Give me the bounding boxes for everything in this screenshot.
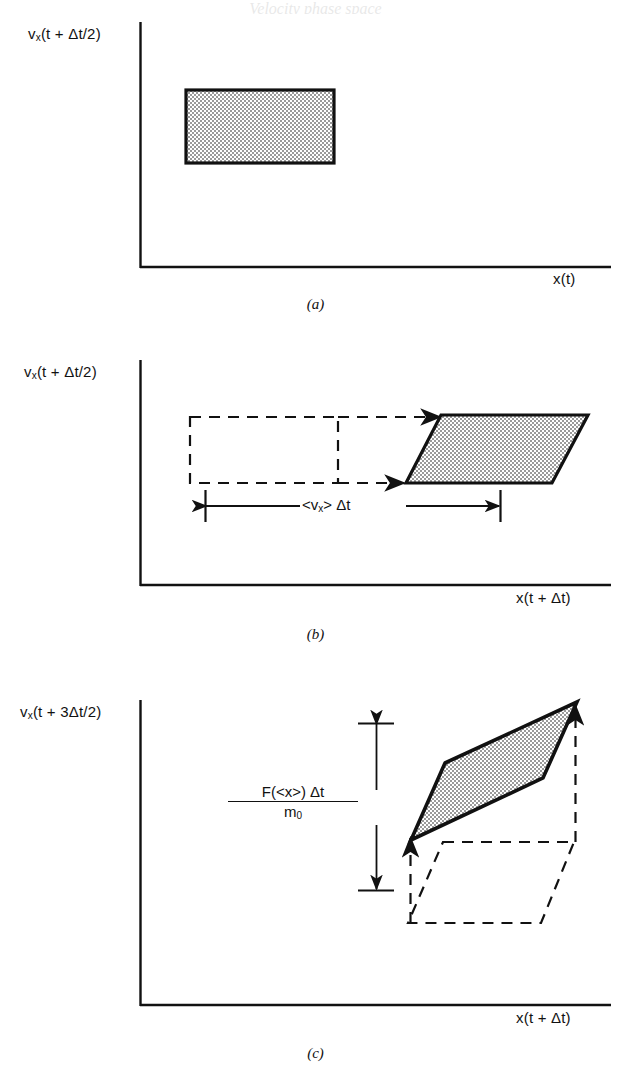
phase-space-area-previous-dashed bbox=[190, 417, 338, 483]
phase-space-area-initial bbox=[186, 90, 334, 163]
phase-space-area-accelerated bbox=[411, 702, 577, 840]
dimension-line-force-impulse bbox=[358, 724, 394, 891]
panel-a-caption: (a) bbox=[0, 296, 631, 313]
panel-b: vx(t + Δt/2) x(t + Δt) <vx> Δt (b) bbox=[0, 330, 631, 660]
force-impulse-denominator: m0 bbox=[228, 802, 358, 822]
panel-a-y-axis-label: vx(t + Δt/2) bbox=[28, 25, 101, 43]
panel-c-y-axis-label: vx(t + 3Δt/2) bbox=[20, 703, 101, 721]
force-impulse-numerator: F(<x>) Δt bbox=[228, 783, 358, 802]
panel-b-y-axis-label: vx(t + Δt/2) bbox=[24, 363, 97, 381]
panel-b-x-axis-label: x(t + Δt) bbox=[516, 589, 571, 606]
phase-space-area-shifted bbox=[406, 415, 588, 483]
panel-c-x-axis-label: x(t + Δt) bbox=[516, 1009, 571, 1026]
panel-a-x-axis-label: x(t) bbox=[553, 270, 575, 287]
phase-space-area-previous-dashed bbox=[408, 842, 574, 923]
panel-c: vx(t + 3Δt/2) x(t + Δt) F(<x>) Δt m0 (c) bbox=[0, 670, 631, 1070]
panel-a: vx(t + Δt/2) x(t) (a) bbox=[0, 0, 631, 320]
panel-a-graphic bbox=[0, 0, 631, 320]
dimension-line-vx-dt bbox=[206, 490, 501, 522]
panel-b-caption: (b) bbox=[0, 626, 631, 643]
panel-c-caption: (c) bbox=[0, 1045, 631, 1062]
force-impulse-label: F(<x>) Δt m0 bbox=[228, 783, 358, 822]
displacement-label: <vx> Δt bbox=[302, 496, 350, 514]
